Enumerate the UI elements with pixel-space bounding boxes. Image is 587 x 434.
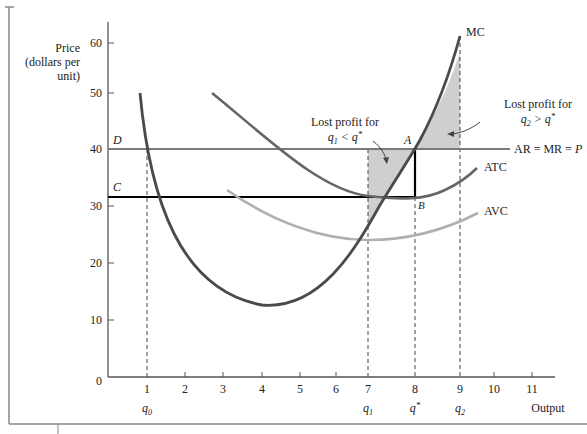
svg-text:q2 > q*: q2 > q* bbox=[521, 111, 556, 128]
x-tick-5: 5 bbox=[297, 382, 303, 396]
point-b-label: B bbox=[418, 199, 425, 211]
q0-label: q0 bbox=[142, 401, 152, 417]
y-tick-20: 20 bbox=[90, 256, 102, 270]
c-label: C bbox=[113, 180, 122, 194]
y-tick-30: 30 bbox=[90, 199, 102, 213]
x-tick-8: 8 bbox=[412, 382, 418, 396]
q1-label: q1 bbox=[363, 401, 373, 417]
y-tick-0: 0 bbox=[96, 374, 102, 388]
dashed-guides bbox=[147, 36, 460, 377]
x-tick-4: 4 bbox=[259, 382, 265, 396]
y-tick-10: 10 bbox=[90, 313, 102, 327]
x-tick-7: 7 bbox=[365, 382, 371, 396]
x-tick-2: 2 bbox=[182, 382, 188, 396]
quantity-labels: q0 q1 q* q2 bbox=[142, 400, 465, 417]
y-tick-40: 40 bbox=[90, 142, 102, 156]
chart-canvas: 0 10 20 30 40 50 60 Price (dollars per u… bbox=[0, 0, 587, 434]
annotation-lost-profit-q2: Lost profit for q2 > q* bbox=[504, 97, 572, 128]
svg-text:Lost profit for: Lost profit for bbox=[311, 115, 379, 129]
qstar-label: q* bbox=[410, 400, 421, 415]
svg-text:Price: Price bbox=[55, 41, 80, 55]
svg-text:q1 < q*: q1 < q* bbox=[328, 129, 363, 146]
y-tick-50: 50 bbox=[90, 86, 102, 100]
svg-text:(dollars per: (dollars per bbox=[25, 55, 80, 69]
y-tick-labels: 0 10 20 30 40 50 60 bbox=[90, 36, 102, 388]
q2-label: q2 bbox=[455, 401, 465, 417]
x-ticks bbox=[185, 372, 532, 377]
y-axis-label: Price (dollars per unit) bbox=[25, 41, 80, 83]
x-tick-1: 1 bbox=[144, 382, 150, 396]
x-tick-10: 10 bbox=[488, 382, 500, 396]
svg-text:unit): unit) bbox=[57, 69, 80, 83]
point-a-label: A bbox=[403, 133, 412, 147]
x-tick-3: 3 bbox=[220, 382, 226, 396]
mc-curve bbox=[140, 36, 460, 305]
x-tick-11: 11 bbox=[526, 382, 538, 396]
d-label: D bbox=[112, 133, 122, 147]
avc-label: AVC bbox=[484, 204, 508, 218]
x-tick-labels: 1 2 3 4 5 6 7 8 9 10 11 bbox=[144, 382, 538, 396]
y-tick-60: 60 bbox=[90, 36, 102, 50]
x-axis-label: Output bbox=[531, 401, 565, 415]
x-tick-6: 6 bbox=[333, 382, 339, 396]
annotation-lost-profit-q1: Lost profit for q1 < q* bbox=[311, 115, 379, 146]
svg-text:Lost profit for: Lost profit for bbox=[504, 97, 572, 111]
ar-label: AR = MR = P bbox=[514, 142, 583, 156]
atc-label: ATC bbox=[484, 160, 507, 174]
x-tick-9: 9 bbox=[457, 382, 463, 396]
mc-label: MC bbox=[466, 25, 485, 39]
